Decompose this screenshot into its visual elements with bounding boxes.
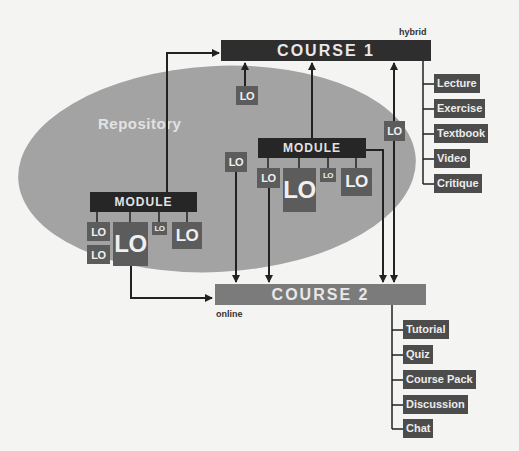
lo-standalone-right: LO bbox=[384, 121, 405, 141]
course1-box: COURSE 1 bbox=[221, 40, 431, 61]
course1-item-lecture: Lecture bbox=[434, 74, 480, 93]
course2-tag: online bbox=[216, 309, 243, 319]
module-left-lo-tiny: LO bbox=[152, 222, 167, 235]
module-left-lo-small-1: LO bbox=[87, 222, 110, 241]
module-left-lo-small-2: LO bbox=[87, 245, 110, 264]
module-right-lo-large: LO bbox=[283, 168, 316, 212]
module-left-lo-large: LO bbox=[113, 222, 148, 266]
course2-item-quiz: Quiz bbox=[403, 345, 433, 364]
module-left-lo-medium: LO bbox=[172, 222, 202, 249]
lo-standalone-top: LO bbox=[236, 86, 258, 105]
course1-tag: hybrid bbox=[399, 27, 427, 37]
course2-item-discussion: Discussion bbox=[403, 395, 468, 414]
course2-item-course-pack: Course Pack bbox=[403, 370, 476, 389]
module-right-lo-small: LO bbox=[257, 168, 280, 188]
course2-item-tutorial: Tutorial bbox=[403, 320, 449, 339]
course1-item-critique: Critique bbox=[434, 174, 482, 193]
module-right-lo-tiny: LO bbox=[320, 168, 336, 182]
course2-item-chat: Chat bbox=[403, 419, 433, 438]
module-right-lo-medium: LO bbox=[341, 168, 372, 196]
course1-item-textbook: Textbook bbox=[434, 124, 488, 143]
course1-item-video: Video bbox=[434, 149, 470, 168]
module-right: MODULE bbox=[258, 138, 366, 158]
lo-standalone-left: LO bbox=[225, 152, 247, 172]
course1-item-exercise: Exercise bbox=[434, 99, 485, 118]
module-left: MODULE bbox=[90, 192, 197, 212]
course2-box: COURSE 2 bbox=[215, 284, 426, 305]
